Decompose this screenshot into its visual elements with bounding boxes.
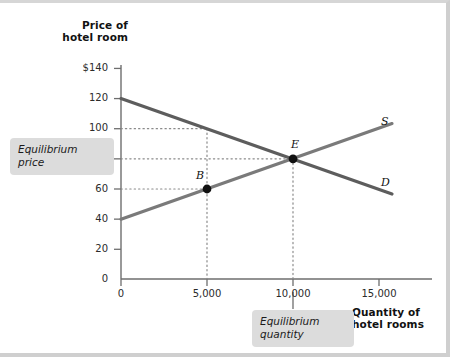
point-e-label: E — [291, 139, 299, 152]
demand-curve — [121, 99, 392, 194]
demand-curve-label: D — [381, 177, 390, 190]
point-b-marker — [203, 185, 212, 194]
y-tick-label-140: $140 — [66, 62, 108, 74]
x-tick-label-0: 0 — [91, 288, 151, 300]
x-tick-label-15000: 15,000 — [349, 288, 409, 300]
x-tick-label-10000: 10,000 — [263, 288, 323, 300]
y-axis-title: Price of hotel room — [58, 19, 128, 43]
y-tick-marks — [114, 68, 121, 249]
y-tick-label-0: 0 — [66, 273, 108, 285]
y-tick-label-60: 60 — [66, 183, 108, 195]
y-tick-label-40: 40 — [66, 213, 108, 225]
callout-equilibrium-price: Equilibrium price — [10, 138, 114, 175]
figure-panel: Price of hotel room Quantity of hotel ro… — [0, 0, 450, 357]
y-tick-label-120: 120 — [66, 92, 108, 104]
x-axis-title: Quantity of hotel rooms — [352, 306, 446, 330]
supply-curve — [121, 124, 392, 220]
supply-curve-label: S — [381, 116, 389, 129]
point-b-label: B — [196, 170, 204, 183]
x-tick-label-5000: 5,000 — [177, 288, 237, 300]
y-tick-label-20: 20 — [66, 243, 108, 255]
y-tick-label-100: 100 — [66, 122, 108, 134]
point-e-marker — [289, 154, 298, 163]
callout-equilibrium-quantity: Equilibrium quantity — [252, 310, 354, 347]
x-tick-marks — [121, 279, 379, 286]
